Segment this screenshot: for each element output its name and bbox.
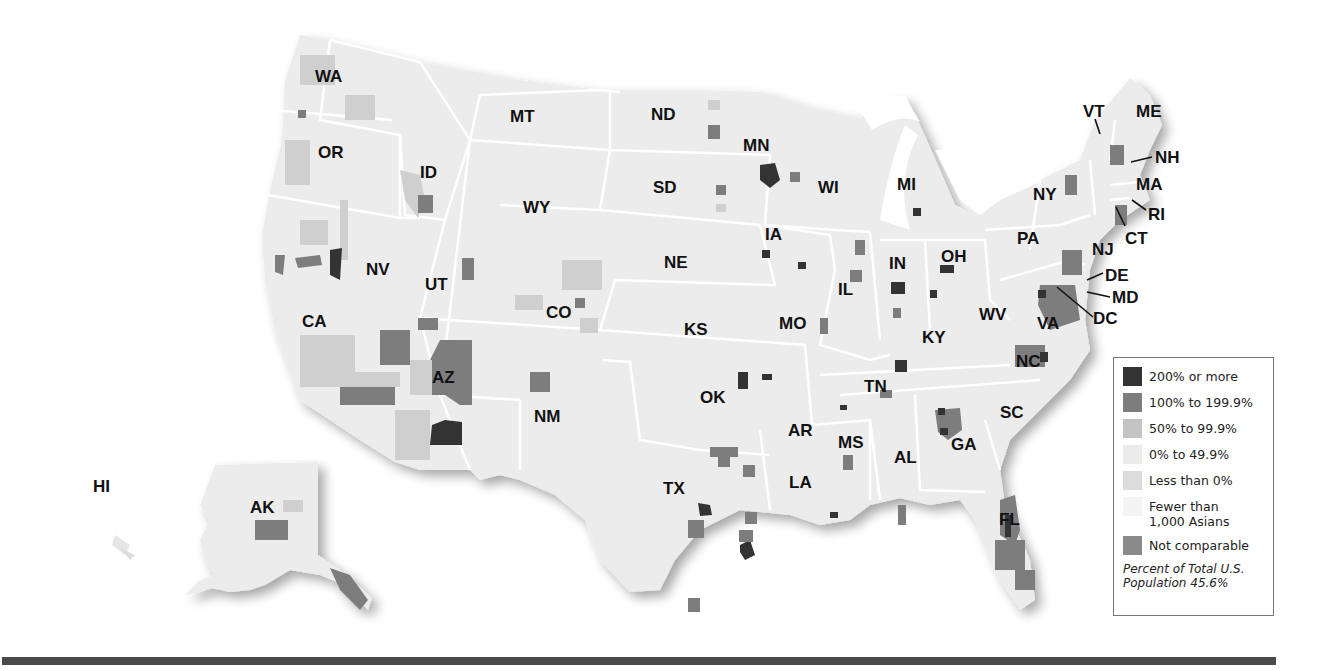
svg-text:AR: AR: [788, 421, 813, 440]
svg-text:IA: IA: [765, 225, 782, 244]
hawaii: [112, 535, 135, 560]
svg-text:CT: CT: [1125, 229, 1148, 248]
svg-text:NM: NM: [534, 407, 560, 426]
legend-item-200-plus: 200% or more: [1123, 367, 1273, 386]
svg-text:IL: IL: [838, 280, 853, 299]
legend-label: 50% to 99.9%: [1149, 419, 1237, 436]
svg-text:AK: AK: [250, 498, 275, 517]
svg-text:GA: GA: [951, 435, 977, 454]
legend-item-fewer-than-1000: Fewer than 1,000 Asians: [1123, 497, 1273, 529]
svg-text:KS: KS: [684, 320, 708, 339]
svg-text:AL: AL: [894, 448, 917, 467]
legend-label: Not comparable: [1149, 536, 1249, 553]
legend-swatch: [1123, 536, 1142, 555]
legend-item-not-comparable: Not comparable: [1123, 536, 1273, 555]
svg-text:MO: MO: [779, 314, 806, 333]
svg-text:WI: WI: [818, 178, 839, 197]
svg-text:NY: NY: [1033, 185, 1057, 204]
legend-note: Percent of Total U.S. Population 45.6%: [1123, 562, 1273, 590]
svg-text:NV: NV: [366, 260, 390, 279]
legend-swatch: [1123, 471, 1142, 490]
legend-item-100-199: 100% to 199.9%: [1123, 393, 1273, 412]
svg-text:HI: HI: [93, 477, 110, 496]
svg-text:DC: DC: [1093, 309, 1118, 328]
legend-swatch: [1123, 419, 1142, 438]
svg-text:MT: MT: [510, 107, 535, 126]
svg-text:VT: VT: [1083, 102, 1105, 121]
legend-label: 200% or more: [1149, 367, 1238, 384]
legend-label: Less than 0%: [1149, 471, 1233, 488]
legend-label: 0% to 49.9%: [1149, 445, 1229, 462]
svg-text:SC: SC: [1000, 403, 1024, 422]
svg-text:MS: MS: [838, 433, 864, 452]
svg-text:OR: OR: [318, 143, 344, 162]
svg-text:TX: TX: [663, 479, 685, 498]
svg-text:RI: RI: [1148, 205, 1165, 224]
svg-text:WA: WA: [315, 67, 342, 86]
svg-text:WY: WY: [523, 198, 551, 217]
svg-text:AZ: AZ: [432, 368, 455, 387]
contiguous-us: [262, 35, 1162, 610]
bottom-rule: [2, 657, 1276, 665]
svg-text:NE: NE: [664, 253, 688, 272]
legend-label: Fewer than 1,000 Asians: [1149, 497, 1229, 529]
svg-text:TN: TN: [864, 377, 887, 396]
legend-item-less-than-0: Less than 0%: [1123, 471, 1273, 490]
legend-swatch: [1123, 445, 1142, 464]
svg-text:ND: ND: [651, 105, 676, 124]
svg-text:VA: VA: [1037, 314, 1059, 333]
svg-text:MA: MA: [1136, 175, 1162, 194]
legend-swatch: [1123, 393, 1142, 412]
svg-text:UT: UT: [425, 275, 448, 294]
svg-text:NC: NC: [1016, 352, 1041, 371]
svg-text:ME: ME: [1136, 102, 1162, 121]
legend: 200% or more 100% to 199.9% 50% to 99.9%…: [1113, 357, 1274, 616]
svg-text:PA: PA: [1017, 229, 1039, 248]
svg-text:LA: LA: [789, 473, 812, 492]
svg-text:OH: OH: [941, 247, 967, 266]
svg-text:MI: MI: [897, 175, 916, 194]
svg-text:MN: MN: [743, 136, 769, 155]
legend-swatch: [1123, 497, 1142, 516]
svg-text:MD: MD: [1112, 288, 1138, 307]
svg-text:OK: OK: [700, 388, 726, 407]
svg-text:DE: DE: [1105, 266, 1129, 285]
alaska: [185, 462, 372, 610]
svg-text:FL: FL: [999, 510, 1020, 529]
svg-text:CO: CO: [546, 303, 572, 322]
legend-item-50-99: 50% to 99.9%: [1123, 419, 1273, 438]
svg-text:WV: WV: [979, 305, 1007, 324]
svg-text:ID: ID: [420, 163, 437, 182]
svg-text:NJ: NJ: [1092, 240, 1114, 259]
legend-swatch: [1123, 367, 1142, 386]
svg-text:SD: SD: [653, 178, 677, 197]
svg-text:NH: NH: [1155, 148, 1180, 167]
legend-label: 100% to 199.9%: [1149, 393, 1253, 410]
svg-text:CA: CA: [302, 312, 327, 331]
svg-text:KY: KY: [922, 328, 946, 347]
legend-item-0-49: 0% to 49.9%: [1123, 445, 1273, 464]
svg-text:IN: IN: [889, 254, 906, 273]
